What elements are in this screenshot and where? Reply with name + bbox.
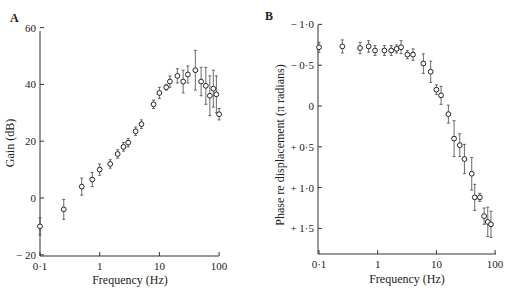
chart-b-y-label: Phase re displacement (π radians) [273,64,287,225]
open-circle-marker [469,171,474,176]
open-circle-marker [168,79,173,84]
x-tick-label: 0·1 [33,260,48,272]
open-circle-marker [428,69,433,74]
open-circle-marker [164,85,169,90]
data-point [457,134,462,157]
data-point [472,184,477,210]
open-circle-marker [214,92,219,97]
chart-b-y-ticks: − 1·0− 0·50+ 0·5+ 1·0+ 1·5 [290,18,322,234]
chart-b-data-points [317,40,494,237]
open-circle-marker [139,122,144,127]
open-circle-marker [211,86,216,91]
open-circle-marker [133,129,138,134]
open-circle-marker [477,195,482,200]
data-point [462,144,467,173]
open-circle-marker [452,136,457,141]
data-point [181,70,186,93]
data-point [394,45,399,53]
data-point [373,46,378,56]
open-circle-marker [79,184,84,189]
data-point [469,157,474,190]
open-circle-marker [185,72,190,77]
open-circle-marker [340,44,345,49]
chart-a-x-ticks: 0·1110100 [33,252,228,272]
data-point [185,66,190,83]
data-point [121,143,126,152]
chart-a-x-label: Frequency (Hz) [92,273,168,287]
y-tick-label: 40 [25,78,37,90]
open-circle-marker [457,143,462,148]
open-circle-marker [482,214,487,219]
data-point [126,138,131,147]
x-tick-label: 1 [375,258,381,270]
data-point [199,67,204,95]
data-point [366,41,371,52]
x-tick-label: 0·1 [312,258,327,270]
y-tick-label: 60 [25,22,37,34]
data-point [428,61,433,82]
x-tick-label: 100 [211,260,228,272]
data-point [411,49,416,60]
open-circle-marker [115,152,120,157]
data-point [340,40,345,53]
chart-a-data-points [38,50,222,235]
data-point [97,164,102,175]
data-point [434,85,439,95]
y-tick-label: 0 [31,192,37,204]
open-circle-marker [439,93,444,98]
data-point [477,193,482,201]
data-point [207,76,212,116]
open-circle-marker [217,112,222,117]
data-point [157,87,162,98]
x-tick-label: 10 [154,260,166,272]
panel-b-label: B [265,9,273,23]
data-point [108,160,113,169]
data-point [317,42,322,52]
data-point [79,178,84,195]
chart-a: A − 200204060 0·1110100 Frequency (Hz) G… [3,11,228,287]
open-circle-marker [317,45,322,50]
chart-b-x-ticks: 0·1110100 [312,250,504,270]
data-point [164,84,169,90]
x-tick-label: 1 [97,260,103,272]
y-tick-label: − 20 [16,249,36,261]
data-point [389,46,394,56]
y-tick-label: + 0·5 [290,141,314,153]
open-circle-marker [462,157,467,162]
open-circle-marker [382,48,387,53]
panel-a-label: A [10,11,19,25]
y-tick-label: − 0·5 [290,59,314,71]
open-circle-marker [199,79,204,84]
open-circle-marker [97,167,102,172]
x-tick-label: 10 [431,258,443,270]
data-point [452,121,457,157]
open-circle-marker [181,79,186,84]
x-tick-label: 100 [487,258,504,270]
open-circle-marker [358,46,363,51]
data-point [38,218,43,235]
data-point [421,54,426,74]
data-point [203,67,208,104]
open-circle-marker [489,222,494,227]
data-point [90,172,95,186]
data-point [175,69,180,83]
data-point [115,150,120,159]
data-point [446,105,451,123]
data-point [358,42,363,53]
open-circle-marker [446,112,451,117]
open-circle-marker [405,52,410,57]
y-tick-label: 20 [25,135,37,147]
figure: A − 200204060 0·1110100 Frequency (Hz) G… [0,0,526,297]
open-circle-marker [151,102,156,107]
data-point [61,199,66,219]
y-tick-label: 0 [309,100,315,112]
open-circle-marker [175,73,180,78]
open-circle-marker [157,91,162,96]
data-point [439,86,444,104]
chart-b: B − 1·0− 0·50+ 0·5+ 1·0+ 1·5 0·1110100 F… [265,9,504,286]
open-circle-marker [399,45,404,50]
open-circle-marker [121,144,126,149]
open-circle-marker [434,87,439,92]
open-circle-marker [90,177,95,182]
data-point [405,51,410,59]
